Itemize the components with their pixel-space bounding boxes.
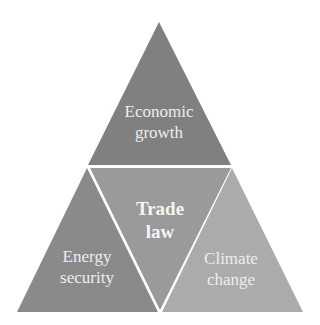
label-center-2: law — [146, 221, 175, 242]
label-left-1: Energy — [63, 247, 112, 266]
label-top-1: Economic — [125, 102, 194, 121]
label-top-2: growth — [135, 123, 184, 142]
segment-top — [88, 22, 231, 165]
trade-law-diagram: Economic growth Trade law Energy securit… — [0, 0, 320, 325]
label-left-2: security — [60, 268, 114, 287]
label-right-1: Climate — [204, 249, 258, 268]
label-right-2: change — [207, 270, 255, 289]
label-center-1: Trade — [136, 198, 184, 219]
